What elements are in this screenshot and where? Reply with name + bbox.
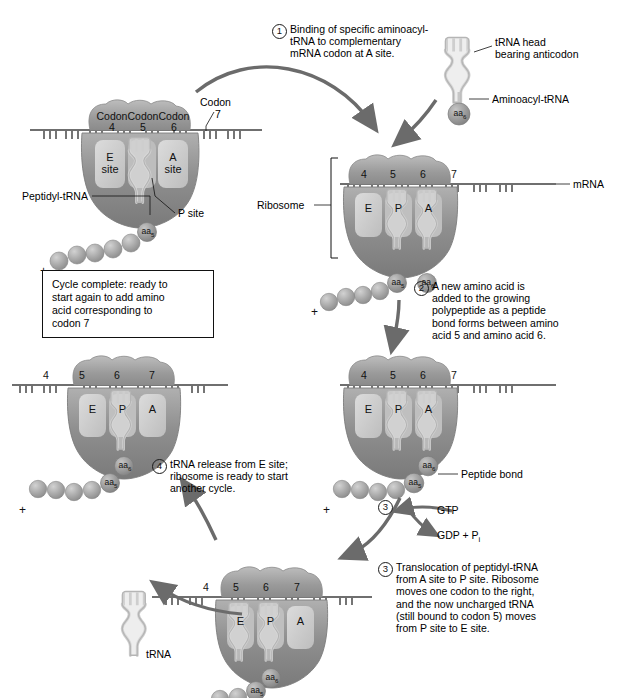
step3-polypeptide (0, 0, 618, 693)
diagram-canvas: 1 Binding of specific aminoacyl- tRNA to… (0, 0, 618, 693)
